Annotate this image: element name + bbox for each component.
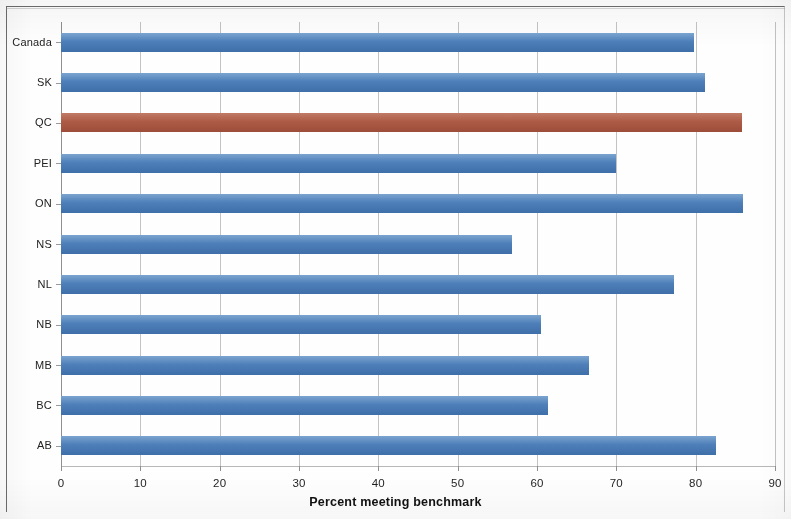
bar-nl[interactable]: [61, 275, 674, 294]
x-tick-80: [696, 466, 697, 471]
category-label-ns: NS: [36, 239, 52, 250]
bar-chart: Percent meeting benchmark 01020304050607…: [0, 0, 791, 519]
category-label-nb: NB: [36, 319, 52, 330]
y-tick-mb: [56, 365, 61, 366]
y-tick-sk: [56, 83, 61, 84]
x-tick-label-0: 0: [41, 477, 81, 489]
category-label-canada: Canada: [12, 37, 52, 48]
bar-qc[interactable]: [61, 113, 742, 132]
y-tick-bc: [56, 405, 61, 406]
category-label-nl: NL: [38, 279, 52, 290]
bar-sk[interactable]: [61, 73, 705, 92]
y-tick-nl: [56, 284, 61, 285]
x-tick-20: [220, 466, 221, 471]
x-tick-90: [775, 466, 776, 471]
y-tick-on: [56, 204, 61, 205]
y-tick-qc: [56, 123, 61, 124]
category-label-qc: QC: [35, 117, 52, 128]
bar-mb[interactable]: [61, 356, 589, 375]
x-tick-label-10: 10: [120, 477, 160, 489]
x-tick-label-20: 20: [200, 477, 240, 489]
category-label-sk: SK: [37, 77, 52, 88]
x-tick-0: [61, 466, 62, 471]
category-label-mb: MB: [35, 360, 52, 371]
bar-ab[interactable]: [61, 436, 716, 455]
category-label-on: ON: [35, 198, 52, 209]
x-tick-10: [140, 466, 141, 471]
bar-on[interactable]: [61, 194, 743, 213]
bar-bc[interactable]: [61, 396, 548, 415]
y-tick-ns: [56, 244, 61, 245]
bar-ns[interactable]: [61, 235, 512, 254]
x-tick-30: [299, 466, 300, 471]
x-tick-label-90: 90: [755, 477, 791, 489]
bar-canada[interactable]: [61, 33, 694, 52]
x-tick-label-40: 40: [358, 477, 398, 489]
x-axis-baseline: [61, 466, 775, 467]
x-tick-label-70: 70: [596, 477, 636, 489]
x-tick-label-50: 50: [438, 477, 478, 489]
bar-pei[interactable]: [61, 154, 616, 173]
x-tick-50: [458, 466, 459, 471]
x-tick-70: [616, 466, 617, 471]
category-label-bc: BC: [36, 400, 52, 411]
x-axis-title: Percent meeting benchmark: [0, 495, 791, 509]
x-tick-label-60: 60: [517, 477, 557, 489]
category-label-ab: AB: [37, 440, 52, 451]
y-tick-pei: [56, 163, 61, 164]
x-tick-label-80: 80: [676, 477, 716, 489]
x-tick-60: [537, 466, 538, 471]
y-tick-ab: [56, 446, 61, 447]
y-tick-nb: [56, 325, 61, 326]
x-tick-40: [378, 466, 379, 471]
category-label-pei: PEI: [34, 158, 52, 169]
y-tick-canada: [56, 42, 61, 43]
bar-nb[interactable]: [61, 315, 541, 334]
x-tick-label-30: 30: [279, 477, 319, 489]
gridline-90: [775, 22, 776, 466]
